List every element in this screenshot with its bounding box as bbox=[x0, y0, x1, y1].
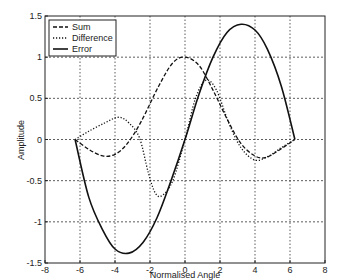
y-axis-label: Amplitude bbox=[16, 120, 26, 160]
y-tick-label: 0.5 bbox=[29, 93, 42, 103]
legend-label-error: Error bbox=[72, 44, 92, 54]
x-tick-label: 6 bbox=[287, 265, 292, 275]
x-tick-label: -4 bbox=[111, 265, 119, 275]
y-tick-label: 1 bbox=[37, 52, 42, 62]
legend-label-sum: Sum bbox=[72, 22, 91, 32]
x-tick-label: 8 bbox=[322, 265, 327, 275]
legend: SumDifferenceError bbox=[49, 20, 116, 56]
y-tick-label: 0 bbox=[37, 135, 42, 145]
x-tick-label: -6 bbox=[76, 265, 84, 275]
line-chart: -8-6-4-202468-1.5-1-0.500.511.5 Normalis… bbox=[0, 0, 343, 280]
y-tick-label: -1.5 bbox=[26, 258, 42, 268]
legend-label-difference: Difference bbox=[72, 33, 113, 43]
y-tick-label: -0.5 bbox=[26, 176, 42, 186]
x-tick-label: 4 bbox=[252, 265, 257, 275]
y-tick-label: -1 bbox=[34, 217, 42, 227]
x-tick-label: -8 bbox=[41, 265, 49, 275]
x-axis-label: Normalised Angle bbox=[150, 270, 221, 280]
y-tick-label: 1.5 bbox=[29, 11, 42, 21]
